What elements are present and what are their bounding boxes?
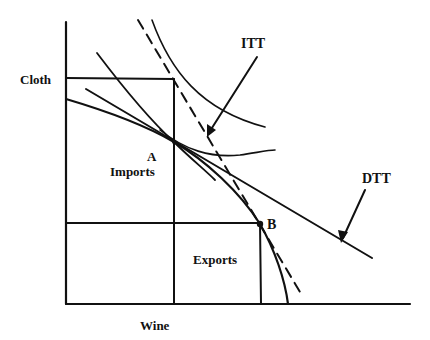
trade-diagram: Cloth Wine A Imports B Exports ITT DTT — [0, 0, 430, 340]
cloth-level-line — [66, 78, 174, 79]
point-a-label: A — [147, 149, 157, 164]
dtt-arrow-line — [343, 190, 365, 238]
x-axis-label: Wine — [140, 318, 170, 333]
point-b-vertical — [260, 223, 261, 304]
dtt-label: DTT — [362, 171, 391, 186]
y-axis-label: Cloth — [20, 72, 52, 87]
itt-arrowhead-icon — [207, 124, 216, 137]
exports-label: Exports — [193, 252, 237, 267]
itt-label: ITT — [241, 36, 266, 51]
point-b-label: B — [267, 217, 276, 232]
imports-label: Imports — [110, 164, 155, 179]
itt-arrow-line — [210, 57, 257, 131]
point-b-dot — [257, 221, 263, 227]
point-a-dot — [172, 140, 176, 144]
production-possibility-curve — [66, 99, 288, 304]
